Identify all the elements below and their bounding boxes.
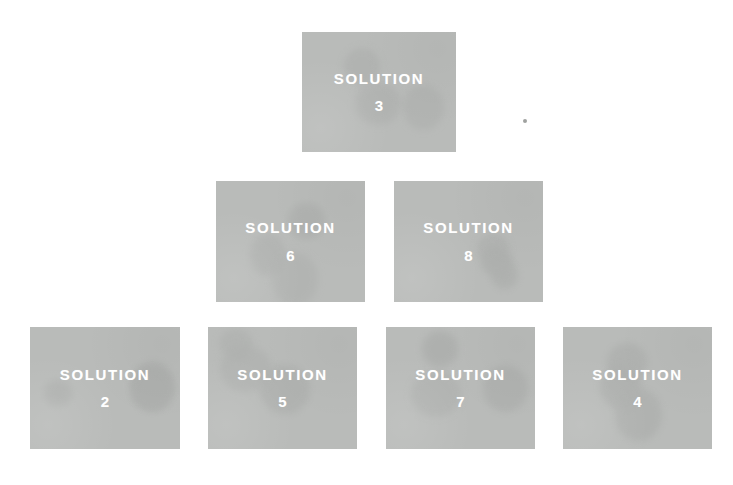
solution-card-2[interactable]: SOLUTION2	[30, 327, 180, 449]
card-label-group: SOLUTION6	[245, 217, 335, 266]
card-number: 7	[415, 391, 505, 412]
solution-pyramid-diagram: SOLUTION3SOLUTION6SOLUTION8SOLUTION2SOLU…	[0, 0, 733, 485]
solution-card-7[interactable]: SOLUTION7	[386, 327, 535, 449]
solution-card-3[interactable]: SOLUTION3	[302, 32, 456, 152]
card-title: SOLUTION	[415, 364, 505, 385]
card-title: SOLUTION	[423, 217, 513, 238]
card-label-group: SOLUTION2	[60, 364, 150, 413]
solution-card-4[interactable]: SOLUTION4	[563, 327, 712, 449]
solution-card-5[interactable]: SOLUTION5	[208, 327, 357, 449]
card-number: 4	[592, 391, 682, 412]
texture-blob	[422, 331, 458, 367]
card-label-group: SOLUTION5	[237, 364, 327, 413]
card-title: SOLUTION	[237, 364, 327, 385]
solution-card-8[interactable]: SOLUTION8	[394, 181, 543, 302]
card-title: SOLUTION	[592, 364, 682, 385]
solution-card-6[interactable]: SOLUTION6	[216, 181, 365, 302]
card-label-group: SOLUTION7	[415, 364, 505, 413]
scan-speck	[523, 119, 527, 123]
card-title: SOLUTION	[60, 364, 150, 385]
texture-blob	[219, 329, 253, 358]
card-number: 8	[423, 245, 513, 266]
card-title: SOLUTION	[245, 217, 335, 238]
card-title: SOLUTION	[334, 68, 424, 89]
card-number: 6	[245, 245, 335, 266]
card-label-group: SOLUTION4	[592, 364, 682, 413]
card-number: 3	[334, 95, 424, 116]
card-label-group: SOLUTION8	[423, 217, 513, 266]
card-number: 5	[237, 391, 327, 412]
card-number: 2	[60, 391, 150, 412]
card-label-group: SOLUTION3	[334, 68, 424, 117]
